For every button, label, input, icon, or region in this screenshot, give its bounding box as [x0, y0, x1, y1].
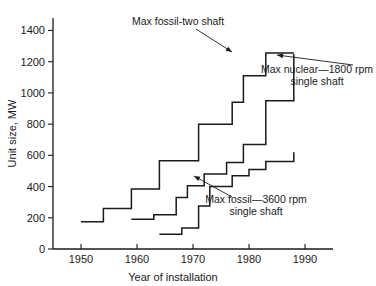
annot-max-fossil-3600-line-0: Max fossil—3600 rpm	[205, 193, 307, 205]
y-tick-label-1200: 1200	[21, 56, 45, 68]
annot-max-fossil-3600-line-1: single shaft	[229, 205, 282, 217]
annotations-group: Max fossil-two shaftMax nuclear—1800 rpm…	[132, 15, 373, 217]
chart-figure: 0200400600800100012001400 19501960197019…	[0, 0, 376, 286]
unit-size-vs-year-chart: 0200400600800100012001400 19501960197019…	[0, 0, 376, 286]
x-axis-ticks: 19501960197019801990	[69, 244, 317, 265]
annot-fossil-two-shaft-arrowhead	[226, 47, 232, 52]
y-tick-label-200: 200	[27, 212, 45, 224]
x-axis-title: Year of installation	[128, 271, 218, 283]
annot-max-nuclear-arrowhead	[277, 53, 283, 58]
annot-fossil-two-shaft-line-0: Max fossil-two shaft	[132, 15, 224, 27]
x-tick-label-1980: 1980	[237, 253, 261, 265]
y-tick-label-400: 400	[27, 181, 45, 193]
annot-max-nuclear-line-1: single shaft	[290, 75, 343, 87]
x-tick-label-1990: 1990	[293, 253, 317, 265]
annot-fossil-two-shaft-leader	[196, 29, 232, 52]
x-tick-label-1970: 1970	[181, 253, 205, 265]
annot-max-fossil-3600-arrowhead	[194, 176, 200, 181]
y-tick-label-1000: 1000	[21, 87, 45, 99]
y-tick-label-0: 0	[39, 243, 45, 255]
y-axis-ticks: 0200400600800100012001400	[21, 24, 53, 255]
annot-max-nuclear-line-0: Max nuclear—1800 rpm	[261, 63, 373, 75]
y-axis-title: Unit size, MW	[6, 99, 18, 167]
y-tick-label-1400: 1400	[21, 24, 45, 36]
x-tick-label-1960: 1960	[125, 253, 149, 265]
y-tick-label-800: 800	[27, 118, 45, 130]
x-tick-label-1950: 1950	[69, 253, 93, 265]
y-tick-label-600: 600	[27, 149, 45, 161]
